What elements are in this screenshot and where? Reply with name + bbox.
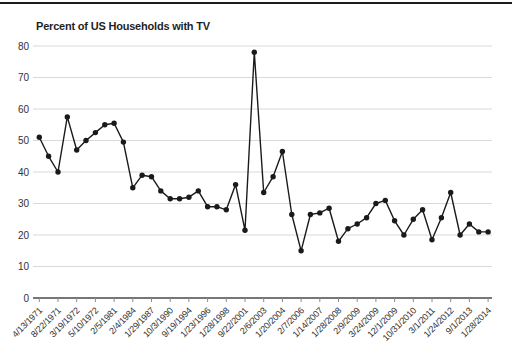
data-point (149, 174, 154, 179)
data-point (158, 188, 163, 193)
y-tick-label: 0 (23, 293, 29, 304)
data-point (364, 215, 369, 220)
data-point (280, 149, 285, 154)
data-point (186, 195, 191, 200)
y-tick-label: 50 (18, 135, 30, 146)
data-point (336, 239, 341, 244)
tv-households-line-chart: 010203040506070804/13/19718/22/19713/19/… (0, 0, 512, 359)
data-point (485, 229, 490, 234)
data-point (308, 212, 313, 217)
data-point (196, 188, 201, 193)
y-tick-label: 20 (18, 230, 30, 241)
data-point (168, 196, 173, 201)
trend-line (39, 52, 488, 251)
data-point (261, 190, 266, 195)
data-point (139, 173, 144, 178)
data-point (102, 122, 107, 127)
data-point (121, 139, 126, 144)
data-point (37, 135, 42, 140)
data-point (401, 232, 406, 237)
data-point (373, 201, 378, 206)
data-point (46, 154, 51, 159)
data-point (242, 228, 247, 233)
data-point (111, 121, 116, 126)
data-point (74, 147, 79, 152)
data-point (214, 204, 219, 209)
data-point (355, 221, 360, 226)
data-point (326, 206, 331, 211)
data-point (476, 229, 481, 234)
page: Percent of US Households with TV 0102030… (0, 0, 512, 359)
data-point (383, 198, 388, 203)
data-point (439, 215, 444, 220)
y-tick-label: 10 (18, 261, 30, 272)
data-point (411, 217, 416, 222)
data-point (392, 218, 397, 223)
data-point (298, 248, 303, 253)
data-point (83, 138, 88, 143)
data-point (429, 237, 434, 242)
data-point (130, 185, 135, 190)
y-tick-label: 30 (18, 198, 30, 209)
data-point (205, 204, 210, 209)
data-point (252, 50, 257, 55)
data-point (93, 130, 98, 135)
data-point (224, 207, 229, 212)
y-tick-label: 60 (18, 104, 30, 115)
data-point (317, 210, 322, 215)
data-point (233, 182, 238, 187)
y-tick-label: 70 (18, 72, 30, 83)
data-point (448, 190, 453, 195)
y-tick-label: 80 (18, 41, 30, 52)
data-point (467, 221, 472, 226)
data-point (65, 114, 70, 119)
data-point (420, 207, 425, 212)
data-point (55, 169, 60, 174)
data-point (345, 226, 350, 231)
y-tick-label: 40 (18, 167, 30, 178)
data-point (457, 232, 462, 237)
data-point (270, 174, 275, 179)
data-point (177, 196, 182, 201)
data-point (289, 212, 294, 217)
